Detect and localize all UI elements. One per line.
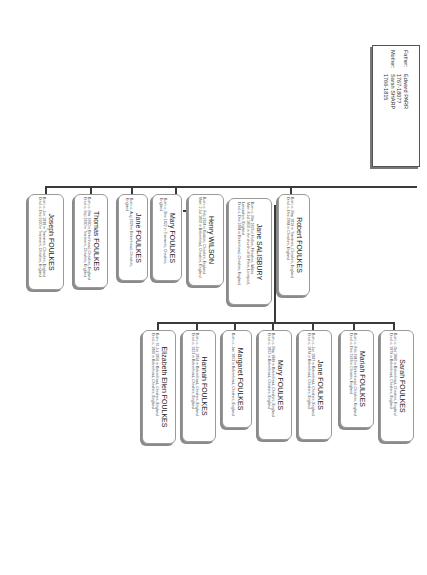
person-box-margaret-foulkes: Margaret FOULKES Born: c. Jan 1853 in Bi… [222,330,252,428]
mother-name: Sarah SHARP [390,74,397,109]
person-name: Sarah FOULKES [399,333,406,439]
person-detail: Born: c. Jan 1853 in Birkenhead, Cheshir… [230,333,234,425]
person-name: Mary FOULKES [169,198,176,278]
person-detail: Marr: 2 Jul 1850 in Birkenhead, Cheshire… [197,197,201,283]
person-box-elizabeth-ellen-foulkes: Elizabeth Ellen FOULKES Born: 31 Jul 185… [142,330,176,444]
person-box-mary-foulkes-gc: Mary FOULKES Born: c. May 1849 in Birken… [258,330,292,440]
father-dates: 1767-1807? [396,74,403,103]
person-box-sarah-foulkes: Sarah FOULKES Born: c. Oct 1840 in Birke… [380,330,414,442]
drop-gc-1 [353,322,355,330]
person-name: Robert FOULKES [296,197,303,293]
person-detail: Died: c. 1923 in Birkenhead, Cheshire, E… [190,333,194,439]
person-detail: Died: c. Sep 1830 in Tranmere, Cheshire,… [82,197,86,285]
person-detail: Born: c. Feb 1824 in Bidston, Cheshire, … [202,197,206,283]
generation-2-connector [157,322,394,324]
person-detail: Died: c. 1860 in Birkenhead, Cheshire, E… [150,333,154,441]
person-detail: Died: c. Dec 1884 in Birkenhead, Cheshir… [237,202,241,302]
person-box-jane-salisbury: Jane SALISBURY Born: c. Mar 1826 in Holt… [228,198,272,305]
drop-gc-4 [234,322,236,330]
person-detail: Born: c. Dec 1822 in Tranmere, Cheshire,… [158,198,167,278]
person-name: Mary FOULKES [277,333,284,437]
drop-mary [175,186,177,194]
drop-robert [290,186,292,194]
drop-gc-5 [196,322,198,330]
person-box-jane-foulkes: Jane FOULKES Born: c. Aug 1828 in Birken… [118,194,148,281]
person-detail: Marr: 8 Jul 1850 in the church of St Pet… [241,202,250,302]
person-detail: Died: c. 1879 in Birkenhead, Cheshire, E… [388,333,392,439]
person-box-hannah-foulkes: Hannah FOULKES Born: c. Jun 1854 in Birk… [182,330,216,442]
drop-thomas [90,186,92,194]
person-name: Elizabeth Ellen FOULKES [161,333,168,441]
person-name: Mariah FOULKES [359,333,366,425]
person-name: Henry WILSON [208,197,215,283]
marriage-link-mary-henry [183,210,187,212]
person-name: Jane FOULKES [135,198,142,278]
parents-box: Father:Edward PARR 1767-1807? Mother:Sar… [372,45,420,167]
person-detail: Died: c. Dec 1918 in Chester, England [348,333,352,425]
person-detail: Born: c. Jun 1838 in Tranmere, Cheshire,… [42,197,46,287]
drop-joseph [45,186,47,194]
person-detail: Born: c. Jun 1847 in Birkenhead, Cheshir… [311,333,315,437]
person-detail: Born: c. May 1849 in Birkenhead, Cheshir… [271,333,275,437]
mother-label: Mother: [390,50,397,74]
drop-jane [131,186,133,194]
person-box-thomas-foulkes: Thomas FOULKES Born: c. Mar 1830 in Birk… [74,194,108,288]
father-label: Father: [403,50,410,74]
person-name: Jane FOULKES [317,333,324,437]
person-name: Hannah FOULKES [201,333,208,439]
person-box-jane-foulkes-gc: Jane FOULKES Born: c. Jun 1847 in Birken… [298,330,332,440]
drop-gc-6 [157,322,159,330]
person-detail: Died: c. Dec 1884 in Cheshire, England [285,197,289,293]
drop-gc-2 [312,322,314,330]
person-box-henry-wilson: Henry WILSON Born: c. Feb 1824 in Bidsto… [188,194,224,286]
person-detail: Born: c. Aug 1828 in Birkenhead, Cheshir… [124,198,133,278]
person-detail: Died: c. Dec 1920 in Tranmere, Cheshire,… [37,197,41,287]
person-detail: Born: c. Feb 1843 in Birkenhead, Cheshir… [353,333,357,425]
person-box-mariah-foulkes: Mariah FOULKES Born: c. Feb 1843 in Birk… [340,330,374,428]
person-detail: Died: c. 1874 in Birkenhead, Cheshire, E… [306,333,310,437]
person-detail: Born: c. Jun 1854 in Birkenhead, Cheshir… [195,333,199,439]
father-name: Edward PARR [403,74,410,109]
person-name: Joseph FOULKES [48,197,55,287]
drop-gc-0 [393,322,395,330]
person-detail: Born: c. May 1819 in Tranmere, Cheshire,… [290,197,294,293]
person-name: Margaret FOULKES [237,333,244,425]
person-detail: Died: c. 1852 in Birkenhead, Cheshire, E… [266,333,270,437]
person-detail: Born: c. Mar 1830 in Birkenhead, Cheshir… [87,197,91,285]
person-detail: Born: c. Oct 1840 in Birkenhead, Cheshir… [393,333,397,439]
person-detail: Born: 31 Jul 1856 in Birkenhead, Cheshir… [155,333,159,441]
drop-gc-3 [272,322,274,330]
person-detail: Born: c. Mar 1826 in Holton, Flintshire,… [250,202,254,302]
person-box-robert-foulkes: Robert FOULKES Born: c. May 1819 in Tran… [278,194,310,296]
person-box-joseph-foulkes: Joseph FOULKES Born: c. Jun 1838 in Tran… [28,194,64,290]
generation-1-connector [45,186,417,188]
person-name: Thomas FOULKES [93,197,100,285]
person-name: Jane SALISBURY [256,202,263,302]
marriage-link-robert-jane [274,205,276,322]
person-box-mary-foulkes: Mary FOULKES Born: c. Dec 1822 in Tranme… [152,194,182,281]
mother-dates: 1766-1815 [383,74,390,100]
